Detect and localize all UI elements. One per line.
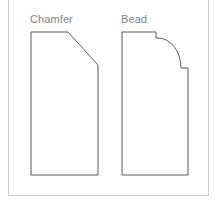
bead-profile-outline (122, 32, 188, 175)
profile-diagram: Chamfer Bead (0, 0, 219, 208)
bead-label: Bead (121, 13, 147, 26)
profile-drawing-canvas (0, 0, 219, 208)
chamfer-profile-outline (31, 32, 98, 175)
chamfer-label: Chamfer (30, 13, 73, 26)
